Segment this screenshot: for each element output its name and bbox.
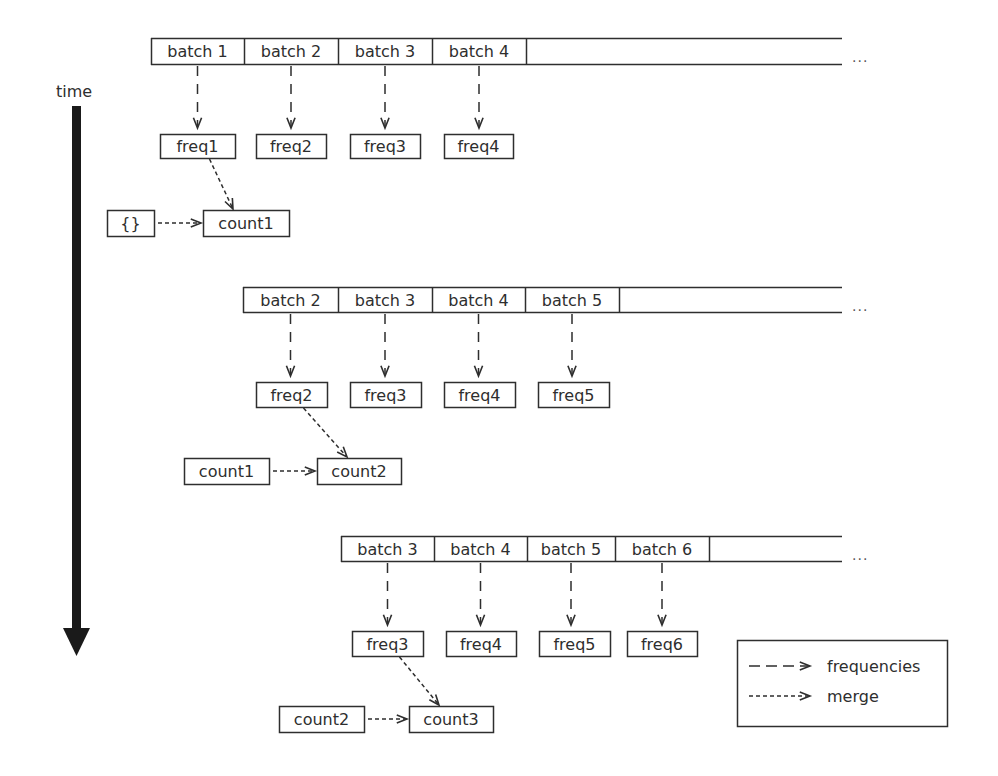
merge-arrow (400, 657, 438, 703)
batch-cell: batch 4 (450, 542, 510, 558)
freq-label: freq4 (457, 139, 499, 155)
previous-count-label: count2 (294, 712, 349, 728)
merge-arrow (210, 159, 233, 207)
merge-arrow (304, 408, 346, 456)
freq-label: freq4 (458, 388, 500, 404)
freq-label: freq3 (364, 139, 406, 155)
time-arrow-down-icon (63, 628, 90, 656)
stream-ellipsis: ... (852, 49, 868, 65)
freq-label: freq6 (641, 637, 683, 653)
batch-cell: batch 5 (541, 542, 601, 558)
count-label: count3 (423, 712, 478, 728)
batch-cell: batch 3 (355, 293, 415, 309)
batch-cell: batch 6 (632, 542, 692, 558)
freq-label: freq4 (460, 637, 502, 653)
batch-cell: batch 2 (261, 44, 321, 60)
freq-label: freq2 (270, 388, 312, 404)
sliding-window-diagram: time...batch 1freq1batch 2freq2batch 3fr… (0, 0, 998, 776)
batch-cell: batch 4 (448, 293, 508, 309)
batch-cell: batch 3 (355, 44, 415, 60)
freq-label: freq3 (366, 637, 408, 653)
freq-label: freq2 (270, 139, 312, 155)
previous-count-label: count1 (199, 464, 254, 480)
batch-cell: batch 4 (449, 44, 509, 60)
count-label: count2 (331, 464, 386, 480)
legend-label-frequencies: frequencies (827, 657, 920, 676)
legend-box (738, 641, 948, 727)
count-label: count1 (218, 216, 273, 232)
previous-count-label: {} (120, 216, 140, 232)
batch-cell: batch 1 (167, 44, 227, 60)
batch-cell: batch 2 (260, 293, 320, 309)
freq-label: freq3 (364, 388, 406, 404)
freq-label: freq5 (552, 388, 594, 404)
time-axis-label: time (56, 84, 92, 100)
legend-label-merge: merge (827, 687, 879, 706)
stream-ellipsis: ... (852, 547, 868, 563)
batch-cell: batch 5 (542, 293, 602, 309)
stream-ellipsis: ... (852, 298, 868, 314)
freq-label: freq5 (553, 637, 595, 653)
time-axis-shaft (72, 106, 81, 630)
batch-cell: batch 3 (357, 542, 417, 558)
freq-label: freq1 (176, 139, 218, 155)
